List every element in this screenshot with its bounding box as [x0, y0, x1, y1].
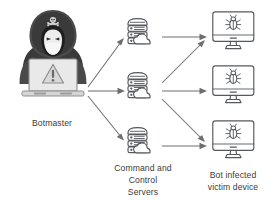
diagram-canvas: Botmaster Command and Control Servers Bo…	[0, 0, 275, 202]
edge-server-1-to-victim-1	[162, 34, 207, 40]
edge-botmaster-to-server-2	[88, 88, 125, 94]
victim-3	[213, 121, 254, 158]
laptop-key-left	[34, 92, 46, 94]
server-3	[128, 128, 150, 153]
victim-2	[213, 66, 254, 103]
laptop-key-right	[60, 92, 72, 94]
edge-botmaster-to-server-1	[88, 38, 124, 87]
server-1	[128, 19, 150, 44]
botmaster-label: Botmaster	[32, 118, 72, 128]
server-2	[128, 73, 150, 98]
victim-1	[213, 12, 254, 49]
edge-server-3-to-victim-1-cross	[162, 99, 205, 142]
edge-group-botmaster-to-servers	[88, 38, 125, 141]
botmaster-node	[20, 10, 87, 96]
edge-botmaster-to-server-3	[88, 96, 124, 141]
edge-server-2-to-victim-2	[162, 88, 207, 94]
laptop-base	[22, 91, 84, 96]
botnet-diagram: Botmaster Command and Control Servers Bo…	[0, 0, 275, 202]
servers-label-line-1: Command and	[114, 163, 172, 173]
edge-server-3-to-victim-3	[162, 143, 207, 149]
servers-label-line-3: Servers	[128, 187, 158, 197]
victims-label-line-2: victim device	[208, 182, 259, 192]
victims-label-line-1: Bot infected	[210, 170, 257, 180]
edge-server-2-to-victim-1	[162, 40, 205, 83]
servers-label-line-2: Control	[129, 175, 157, 185]
edge-group-servers-to-victims	[162, 34, 207, 149]
